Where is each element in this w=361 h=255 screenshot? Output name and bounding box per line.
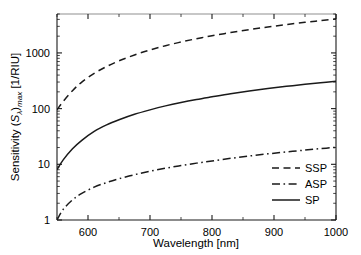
y-tick-label: 100 [32, 103, 50, 115]
legend-label-ssp: SSP [305, 162, 327, 174]
x-axis-title: Wavelength [nm] [153, 237, 239, 249]
legend-label-sp: SP [305, 194, 320, 206]
chart-background [0, 0, 361, 255]
figure-container: 1101001000 6007008009001000 Wavelength [… [0, 0, 361, 255]
y-tick-label: 1 [44, 214, 50, 226]
y-axis-title-prefix: Sensitivity ( [9, 122, 21, 181]
x-tick-label: 900 [265, 226, 283, 238]
x-tick-label: 600 [79, 226, 97, 238]
y-tick-label: 1000 [26, 47, 50, 59]
legend-label-asp: ASP [305, 178, 327, 190]
y-axis-title-suffix: [1/RIU] [9, 53, 21, 92]
y-tick-label: 10 [38, 158, 50, 170]
sensitivity-vs-wavelength-chart: 1101001000 6007008009001000 Wavelength [… [0, 0, 361, 255]
y-axis-title-max-subscript: max [15, 91, 24, 107]
x-tick-label: 1000 [324, 226, 348, 238]
